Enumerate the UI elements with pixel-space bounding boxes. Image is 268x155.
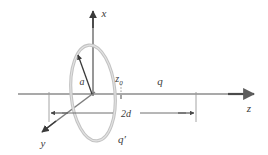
y-axis-group: y	[40, 92, 95, 149]
x-axis-label: x	[101, 7, 107, 19]
image-charge-label: q′	[118, 133, 127, 145]
dimension-2d-label: 2d	[121, 108, 132, 119]
ring-radius-arrow	[78, 55, 92, 94]
z-axis-group: z	[18, 94, 254, 114]
z0-subscript: 0	[119, 79, 123, 87]
z-axis-label: z	[246, 102, 252, 114]
figure-container: z x y a z0 q	[0, 0, 268, 155]
source-charge-label: q	[157, 75, 163, 87]
ring-radius-group: a	[78, 55, 92, 94]
ring-radius-label: a	[80, 76, 85, 87]
ring-charge-diagram: z x y a z0 q	[0, 0, 268, 155]
y-axis-label: y	[40, 137, 46, 149]
y-axis-arrow-shaft	[42, 121, 56, 132]
